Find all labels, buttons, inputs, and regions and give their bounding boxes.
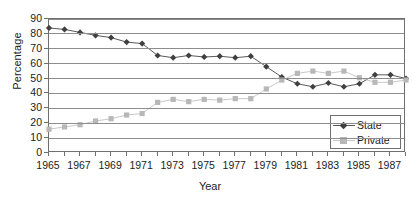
- data-point-square: [295, 71, 300, 76]
- x-axis-title: Year: [0, 180, 420, 192]
- y-tick-label: 10: [8, 131, 42, 143]
- y-tick-label: 20: [8, 116, 42, 128]
- chart-figure: Percentage 90807060504030201001965196719…: [0, 0, 420, 202]
- data-point-square: [341, 69, 346, 74]
- legend[interactable]: State Private: [330, 115, 401, 149]
- data-point-diamond: [341, 84, 347, 90]
- data-point-diamond: [294, 81, 300, 87]
- data-point-square: [62, 124, 67, 129]
- data-point-square: [124, 112, 129, 117]
- data-point-diamond: [263, 64, 269, 70]
- gridline: [49, 93, 404, 94]
- data-point-diamond: [108, 35, 114, 41]
- gridline: [49, 78, 404, 79]
- gridline: [49, 63, 404, 64]
- data-point-square: [388, 80, 393, 85]
- data-point-diamond: [356, 81, 362, 87]
- data-point-diamond: [124, 39, 130, 45]
- data-point-square: [140, 111, 145, 116]
- data-point-diamond: [248, 53, 254, 59]
- y-tick-label: 80: [8, 27, 42, 39]
- series-state: [46, 25, 409, 90]
- y-tick-label: 0: [8, 146, 42, 158]
- data-point-square: [264, 86, 269, 91]
- gridline: [49, 19, 404, 20]
- y-tick-label: 30: [8, 101, 42, 113]
- data-point-diamond: [387, 72, 393, 78]
- legend-label-state: State: [357, 118, 382, 133]
- plot-area: State Private: [48, 18, 405, 152]
- y-tick-label: 90: [8, 12, 42, 24]
- data-point-diamond: [186, 52, 192, 58]
- data-point-square: [108, 116, 113, 121]
- data-point-square: [403, 77, 408, 82]
- data-point-diamond: [232, 55, 238, 61]
- data-point-square: [155, 100, 160, 105]
- data-point-diamond: [372, 72, 378, 78]
- data-point-square: [233, 96, 238, 101]
- data-point-diamond: [61, 26, 67, 32]
- y-tick-label: 60: [8, 57, 42, 69]
- data-point-square: [217, 98, 222, 103]
- gridline: [49, 138, 404, 139]
- y-tick-label: 50: [8, 72, 42, 84]
- data-point-square: [248, 96, 253, 101]
- gridline: [49, 48, 404, 49]
- data-point-square: [46, 127, 51, 132]
- data-point-diamond: [170, 55, 176, 61]
- legend-item-private[interactable]: Private: [331, 133, 400, 148]
- data-point-diamond: [217, 53, 223, 59]
- x-tick-label: 1987: [369, 159, 409, 171]
- data-point-diamond: [201, 54, 207, 60]
- y-tick-label: 70: [8, 42, 42, 54]
- data-point-square: [372, 80, 377, 85]
- y-tick-label: 40: [8, 86, 42, 98]
- private-marker-icon: [331, 133, 357, 148]
- legend-label-private: Private: [357, 133, 390, 148]
- data-point-square: [171, 97, 176, 102]
- data-point-square: [310, 69, 315, 74]
- state-marker-icon: [331, 118, 357, 133]
- gridline: [49, 33, 404, 34]
- data-point-square: [202, 97, 207, 102]
- legend-item-state[interactable]: State: [331, 118, 400, 133]
- data-point-square: [186, 99, 191, 104]
- data-point-diamond: [310, 84, 316, 90]
- gridline: [49, 123, 404, 124]
- data-point-diamond: [325, 80, 331, 86]
- data-point-square: [326, 71, 331, 76]
- gridline: [49, 108, 404, 109]
